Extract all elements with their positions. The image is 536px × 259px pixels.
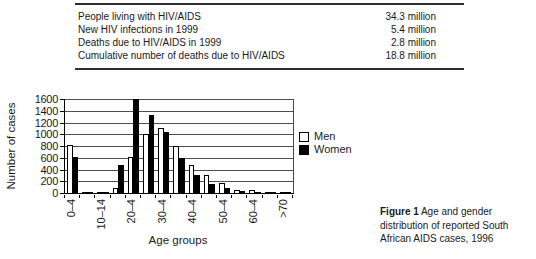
y-tick-mark (60, 111, 64, 112)
bar-women-8 (194, 175, 200, 193)
legend-swatch-women (299, 145, 309, 155)
x-tick-mark (186, 195, 187, 198)
legend: MenWomen (299, 131, 352, 157)
x-tick-label-40–4: 40–4 (187, 199, 198, 223)
bar-women-14 (285, 192, 291, 193)
table-row: People living with HIV/AIDS34.3 million (75, 10, 464, 23)
x-tick-mark (216, 195, 217, 198)
y-tick-label-1600: 1600 (24, 93, 58, 105)
y-tick-mark (60, 181, 64, 182)
figure-caption: Figure 1Age and gender distribution of r… (380, 205, 532, 246)
stat-value: 18.8 million (385, 49, 464, 62)
legend-label: Men (314, 131, 335, 142)
y-tick-label-0: 0 (24, 187, 58, 199)
x-tick-label->70: >70 (278, 199, 289, 218)
y-tick-label-200: 200 (24, 175, 58, 187)
bar-women-11 (240, 191, 246, 193)
legend-label: Women (314, 144, 352, 155)
y-tick-label-1000: 1000 (24, 128, 58, 140)
bar-women-6 (164, 132, 170, 193)
x-tick-label-60–4: 60–4 (248, 199, 259, 223)
x-tick-mark (110, 195, 111, 198)
x-tick-mark (262, 195, 263, 198)
stat-label: New HIV infections in 1999 (75, 23, 198, 36)
bar-women-9 (209, 184, 215, 193)
x-tick-mark (125, 195, 126, 198)
y-tick-mark (60, 123, 64, 124)
y-tick-label-800: 800 (24, 140, 58, 152)
stat-label: People living with HIV/AIDS (75, 10, 201, 23)
y-tick-mark (60, 158, 64, 159)
stat-value: 5.4 million (391, 23, 464, 36)
aids-cases-chart: Number of cases Age groups MenWomen 0200… (0, 88, 380, 259)
x-tick-label-50–4: 50–4 (218, 199, 229, 223)
x-tick-mark (277, 195, 278, 198)
legend-swatch-men (299, 132, 309, 142)
bar-women-1 (88, 192, 94, 193)
y-tick-label-600: 600 (24, 152, 58, 164)
gridline-1200 (65, 123, 293, 124)
legend-item-men: Men (299, 131, 352, 142)
y-tick-label-400: 400 (24, 164, 58, 176)
hiv-stats-table: People living with HIV/AIDS34.3 millionN… (75, 3, 464, 70)
x-tick-mark (231, 195, 232, 198)
x-tick-mark (246, 195, 247, 198)
bar-women-12 (255, 192, 261, 194)
gridline-1600 (65, 99, 293, 100)
bar-women-2 (103, 192, 109, 194)
x-tick-label-0–4: 0–4 (66, 199, 77, 217)
gridline-1400 (65, 111, 293, 112)
x-axis-title: Age groups (64, 234, 292, 246)
x-tick-mark (94, 195, 95, 198)
x-tick-mark (170, 195, 171, 198)
table-row: Cumulative number of deaths due to HIV/A… (75, 49, 464, 62)
x-tick-mark (64, 195, 65, 198)
y-tick-mark (60, 146, 64, 147)
legend-item-women: Women (299, 144, 352, 155)
bar-women-5 (149, 115, 155, 193)
bar-women-13 (270, 192, 276, 193)
x-tick-label-30–4: 30–4 (157, 199, 168, 223)
x-tick-label-20–4: 20–4 (126, 199, 137, 223)
y-tick-label-1400: 1400 (24, 105, 58, 117)
plot-area (64, 99, 294, 194)
y-tick-mark (60, 99, 64, 100)
y-tick-mark (60, 134, 64, 135)
y-axis-title: Number of cases (5, 103, 17, 190)
gridline-800 (65, 146, 293, 147)
x-tick-mark (155, 195, 156, 198)
gridline-1000 (65, 134, 293, 135)
y-tick-mark (60, 193, 64, 194)
bar-women-10 (225, 188, 231, 193)
x-tick-mark (140, 195, 141, 198)
table-row: New HIV infections in 19995.4 million (75, 23, 464, 36)
y-tick-mark (60, 170, 64, 171)
x-tick-mark (79, 195, 80, 198)
stat-value: 2.8 million (391, 36, 464, 49)
bar-women-3 (118, 165, 124, 193)
bar-women-0 (73, 157, 79, 193)
x-tick-label-10–14: 10–14 (96, 199, 107, 230)
table-row: Deaths due to HIV/AIDS in 19992.8 millio… (75, 36, 464, 49)
figure-caption-label: Figure 1 (380, 206, 419, 217)
stat-value: 34.3 million (385, 10, 464, 23)
y-tick-label-1200: 1200 (24, 117, 58, 129)
stat-label: Deaths due to HIV/AIDS in 1999 (75, 36, 221, 49)
x-tick-mark (201, 195, 202, 198)
stat-label: Cumulative number of deaths due to HIV/A… (75, 49, 285, 62)
x-tick-mark (292, 195, 293, 198)
bar-women-4 (133, 99, 139, 193)
bar-women-7 (179, 158, 185, 193)
